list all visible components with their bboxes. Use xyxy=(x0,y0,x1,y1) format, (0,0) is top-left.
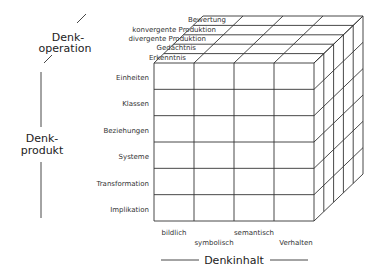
product-label-3: Systeme xyxy=(119,153,149,161)
cube-edge xyxy=(314,69,363,116)
structure-of-intellect-cube: Bewertung konvergente Produktion diverge… xyxy=(0,0,381,277)
operation-divider-bottom xyxy=(44,55,52,63)
product-label-1: Klassen xyxy=(122,100,149,108)
cube-edge xyxy=(234,16,283,63)
product-label-5: Implikation xyxy=(110,206,149,214)
cube-edge xyxy=(274,16,323,63)
product-label-0: Einheiten xyxy=(116,74,149,82)
operation-divider-top xyxy=(77,14,86,23)
product-label-4: Transformation xyxy=(95,180,149,188)
operation-label-3: Gedächtnis xyxy=(156,44,196,52)
product-title-line2: produkt xyxy=(21,144,64,157)
content-title: Denkinhalt xyxy=(204,254,264,267)
operation-label-1: konvergente Produktion xyxy=(132,26,216,34)
operation-label-2: divergente Produktion xyxy=(128,35,206,43)
cube-edge xyxy=(314,16,363,63)
cube-edge xyxy=(314,121,363,168)
content-label-2: semantisch xyxy=(234,229,274,237)
content-label-0: bildlich xyxy=(162,229,187,237)
operation-label-0: Bewertung xyxy=(188,16,226,24)
operation-title-line2: operation xyxy=(39,42,92,55)
operation-label-4: Erkenntnis xyxy=(149,54,186,62)
cube-edge xyxy=(314,148,363,195)
content-label-3: Verhalten xyxy=(279,239,312,247)
cube-edge xyxy=(314,174,363,221)
cube-edge xyxy=(314,42,363,89)
product-label-2: Beziehungen xyxy=(103,127,149,135)
content-label-1: symbolisch xyxy=(194,239,233,247)
cube-edge xyxy=(314,95,363,142)
